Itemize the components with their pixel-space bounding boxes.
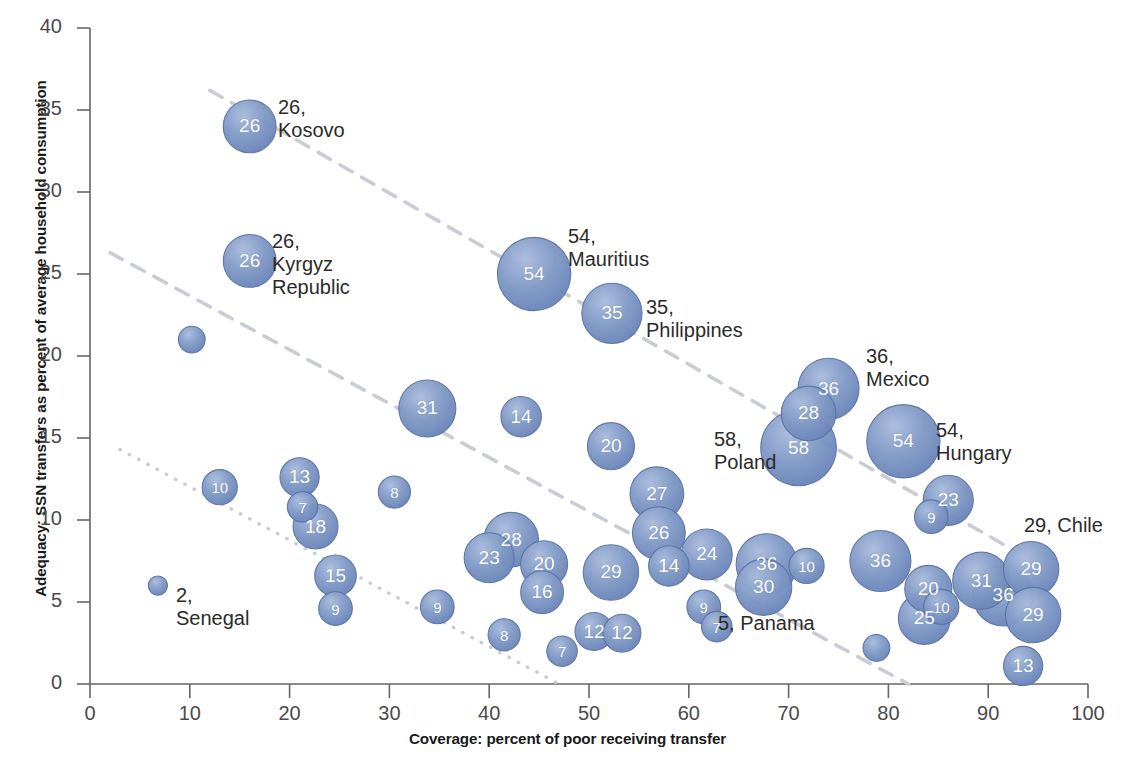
bubble[interactable]	[399, 380, 456, 437]
bubble[interactable]	[488, 619, 520, 651]
y-tick-label: 30	[16, 179, 62, 202]
x-tick-label: 40	[459, 702, 519, 725]
y-tick-label: 10	[16, 507, 62, 530]
bubble-hungary[interactable]	[867, 405, 940, 478]
bubble[interactable]	[914, 500, 948, 534]
y-tick-label: 0	[16, 671, 62, 694]
y-tick-label: 15	[16, 425, 62, 448]
callout-senegal: 2, Senegal	[176, 584, 249, 630]
bubble-senegal[interactable]	[148, 576, 167, 595]
y-tick-label: 40	[16, 15, 62, 38]
y-tick-label: 20	[16, 343, 62, 366]
callout-hungary: 54, Hungary	[936, 419, 1012, 465]
bubble[interactable]	[736, 559, 792, 615]
bubble-kyrgyz-republic[interactable]	[223, 234, 276, 287]
x-tick-label: 10	[160, 702, 220, 725]
bubble[interactable]	[178, 326, 205, 353]
bubble[interactable]	[953, 552, 1010, 609]
x-tick-label: 30	[359, 702, 419, 725]
bubble[interactable]	[521, 571, 564, 614]
plot-area	[0, 0, 1135, 760]
x-tick-label: 60	[659, 702, 719, 725]
bubble[interactable]	[649, 546, 689, 586]
bubble-mauritius[interactable]	[497, 237, 570, 310]
y-tick-label: 25	[16, 261, 62, 284]
bubble[interactable]	[1004, 646, 1043, 685]
bubble[interactable]	[464, 533, 514, 583]
callout-kyrgyz-republic: 26, Kyrgyz Republic	[272, 230, 350, 299]
x-tick-label: 70	[759, 702, 819, 725]
bubble[interactable]	[501, 396, 541, 436]
bubble[interactable]	[319, 592, 353, 626]
bubble[interactable]	[781, 386, 836, 441]
bubble[interactable]	[1005, 587, 1060, 642]
bubble[interactable]	[202, 470, 237, 505]
x-tick-label: 80	[858, 702, 918, 725]
callout-kosovo: 26, Kosovo	[278, 96, 345, 142]
bubble[interactable]	[850, 531, 911, 592]
bubble[interactable]	[681, 529, 732, 580]
y-tick-label: 5	[16, 589, 62, 612]
x-tick-label: 20	[260, 702, 320, 725]
bubble[interactable]	[378, 476, 410, 508]
x-tick-label: 100	[1058, 702, 1118, 725]
bubble[interactable]	[420, 590, 454, 624]
bubble-philippines[interactable]	[582, 283, 642, 343]
bubble[interactable]	[287, 492, 317, 522]
x-tick-label: 90	[958, 702, 1018, 725]
callout-mexico: 36, Mexico	[866, 345, 929, 391]
bubble[interactable]	[587, 423, 634, 470]
bubble[interactable]	[583, 545, 638, 600]
x-tick-label: 50	[559, 702, 619, 725]
chart-canvas: Adequacy: SSN transfers as percent of av…	[0, 0, 1135, 760]
bubble[interactable]	[603, 614, 641, 652]
callout-panama: 5, Panama	[718, 612, 815, 635]
bubble-kosovo[interactable]	[223, 100, 276, 153]
bubble-panama[interactable]	[863, 635, 890, 662]
callout-chile: 29, Chile	[1024, 514, 1103, 537]
callout-philippines: 35, Philippines	[646, 296, 743, 342]
bubble[interactable]	[315, 555, 357, 597]
bubble[interactable]	[924, 589, 959, 624]
callout-poland: 58, Poland	[714, 428, 776, 474]
bubble[interactable]	[547, 636, 577, 666]
bubble[interactable]	[789, 548, 824, 583]
x-tick-label: 0	[60, 702, 120, 725]
bubble[interactable]	[280, 458, 319, 497]
callout-mauritius: 54, Mauritius	[568, 225, 649, 271]
y-tick-label: 35	[16, 97, 62, 120]
